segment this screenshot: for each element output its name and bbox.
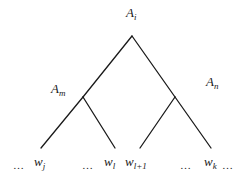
node-right-label: An	[206, 75, 218, 91]
node-root-base: A	[126, 5, 134, 20]
leaf-wk-base: w	[204, 154, 213, 169]
edge-root-to-am	[83, 36, 132, 97]
leaf-ellipsis-1: …	[13, 160, 24, 171]
node-left-label: Am	[51, 82, 65, 98]
leaf-wl1: wl+1	[125, 155, 147, 171]
leaf-ellipsis-4: …	[222, 160, 233, 171]
edge-an-to-wl1	[140, 97, 175, 148]
edge-root-to-an	[132, 36, 175, 97]
leaf-wl1-base: w	[125, 154, 134, 169]
node-root-sub: i	[134, 12, 137, 22]
leaf-wl-base: w	[104, 154, 113, 169]
edge-an-to-wk	[175, 97, 211, 148]
leaf-wk-sub: k	[213, 161, 217, 171]
parse-tree-diagram: Ai Am An … wj … wl wl+1 … wk …	[0, 0, 246, 184]
edge-am-to-wl	[83, 97, 115, 148]
leaf-wl-sub: l	[113, 161, 116, 171]
node-right-base: A	[206, 74, 214, 89]
leaf-wl1-sub: l+1	[134, 161, 147, 171]
leaf-wj: wj	[34, 155, 45, 171]
leaf-wj-sub: j	[43, 161, 46, 171]
node-root-label: Ai	[126, 6, 136, 22]
edge-am-to-wj	[41, 97, 83, 148]
leaf-ellipsis-3: …	[180, 160, 191, 171]
leaf-wl: wl	[104, 155, 115, 171]
node-right-sub: n	[214, 81, 219, 91]
node-left-base: A	[51, 81, 59, 96]
leaf-wj-base: w	[34, 154, 43, 169]
node-left-sub: m	[59, 88, 66, 98]
leaf-wk: wk	[204, 155, 217, 171]
leaf-ellipsis-2: …	[82, 160, 93, 171]
